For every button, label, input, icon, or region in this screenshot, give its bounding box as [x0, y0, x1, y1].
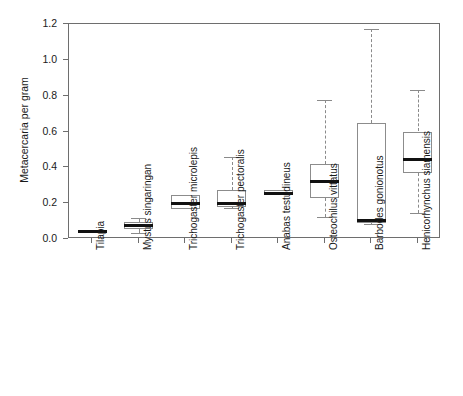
- upper-whisker: [418, 90, 419, 131]
- y-tick-label: 0.2: [11, 196, 57, 208]
- y-tick-label: 1.0: [11, 53, 57, 65]
- upper-whisker-cap: [410, 90, 425, 91]
- chart-canvas: Metacercaria per gram 0.00.20.40.60.81.0…: [0, 0, 463, 396]
- y-tick-label: 0.4: [11, 160, 57, 172]
- x-tick-mark: [184, 238, 185, 243]
- x-axis-label: Osteochilus vittatus: [328, 163, 339, 250]
- x-tick-mark: [277, 238, 278, 243]
- x-axis-label: Barbodes gonionotus: [374, 155, 385, 250]
- y-tick-label: 0.6: [11, 125, 57, 137]
- y-tick-mark: [63, 238, 68, 239]
- x-axis-label: Henicorhynchus siamensis: [421, 131, 432, 250]
- x-axis-label: Mystus singaringan: [142, 164, 153, 250]
- x-axis-label: Tilapia: [95, 221, 106, 250]
- x-tick-mark: [417, 238, 418, 243]
- boxplot-group: [69, 24, 441, 239]
- x-tick-mark: [370, 238, 371, 243]
- lower-whisker: [418, 173, 419, 213]
- x-tick-mark: [138, 238, 139, 243]
- x-tick-mark: [324, 238, 325, 243]
- x-axis-label: Trichogaster pectoralis: [235, 149, 246, 250]
- x-axis-label: Anabas testudineus: [281, 162, 292, 250]
- y-tick-label: 1.2: [11, 17, 57, 29]
- x-tick-mark: [91, 238, 92, 243]
- y-tick-label: 0.0: [11, 232, 57, 244]
- y-tick-label: 0.8: [11, 89, 57, 101]
- x-tick-mark: [231, 238, 232, 243]
- x-axis-label: Trichogaster microlepis: [188, 147, 199, 250]
